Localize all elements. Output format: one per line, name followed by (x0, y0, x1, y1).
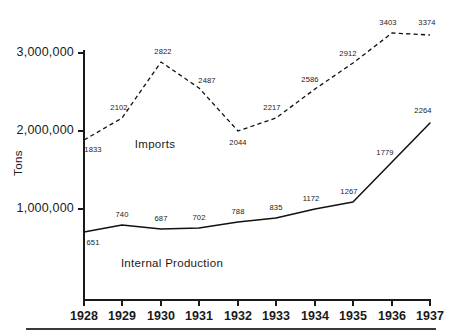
chart-canvas: 3,000,000 2,000,000 1,000,000 Tons 1928 … (0, 0, 453, 336)
x-tick-label-1930: 1930 (147, 309, 175, 323)
x-tick-label-1934: 1934 (301, 309, 329, 323)
point-label-imports-1937: 3374 (418, 18, 435, 27)
y-tick-label-3000000: 3,000,000 (17, 45, 74, 59)
y-axis-title: Tons (12, 150, 24, 176)
x-tick-label-1931: 1931 (185, 309, 213, 323)
point-label-internal-production-1932: 788 (232, 207, 245, 216)
point-label-internal-production-1934: 1172 (303, 194, 320, 203)
point-label-imports-1936: 3403 (379, 18, 396, 27)
x-tick-label-1935: 1935 (339, 309, 367, 323)
y-axis-ticks (78, 53, 84, 209)
point-label-internal-production-1930: 687 (155, 214, 168, 223)
point-label-imports-1929: 2102 (110, 103, 127, 112)
point-label-imports-1934: 2586 (301, 75, 318, 84)
x-axis-ticks (84, 300, 430, 306)
point-label-imports-1933: 2217 (263, 103, 280, 112)
point-label-internal-production-1936: 1779 (376, 148, 393, 157)
point-label-imports-1932: 2044 (229, 138, 246, 147)
point-label-internal-production-1928: 651 (87, 238, 100, 247)
x-tick-label-1929: 1929 (108, 309, 136, 323)
x-axis-tick-labels: 1928 1929 1930 1931 1932 1933 1934 1935 … (70, 309, 444, 323)
x-tick-label-1932: 1932 (224, 309, 252, 323)
series-label-internal-production: Internal Production (121, 257, 223, 269)
point-label-imports-1928: 1833 (84, 145, 101, 154)
point-label-imports-1935: 2912 (339, 49, 356, 58)
x-tick-label-1928: 1928 (70, 309, 98, 323)
x-tick-label-1936: 1936 (378, 309, 406, 323)
series-line-imports (84, 33, 430, 140)
series-label-imports: Imports (135, 138, 175, 150)
point-label-internal-production-1937: 2264 (414, 106, 431, 115)
point-label-imports-1931: 2487 (198, 76, 215, 85)
point-label-internal-production-1929: 740 (116, 210, 129, 219)
y-axis-tick-labels: 3,000,000 2,000,000 1,000,000 (17, 45, 74, 215)
point-label-imports-1930: 2822 (154, 47, 171, 56)
y-tick-label-1000000: 1,000,000 (17, 201, 74, 215)
point-label-internal-production-1935: 1267 (340, 187, 357, 196)
point-labels-imports: 1833 2102 2822 2487 2044 2217 2586 2912 … (84, 18, 435, 154)
x-tick-label-1933: 1933 (262, 309, 290, 323)
point-label-internal-production-1933: 835 (270, 203, 283, 212)
y-tick-label-2000000: 2,000,000 (17, 123, 74, 137)
x-tick-label-1937: 1937 (416, 309, 444, 323)
point-label-internal-production-1931: 702 (193, 213, 206, 222)
point-labels-internal-production: 651 740 687 702 788 835 1172 1267 1779 2… (87, 106, 432, 247)
line-chart: 3,000,000 2,000,000 1,000,000 Tons 1928 … (0, 0, 453, 336)
